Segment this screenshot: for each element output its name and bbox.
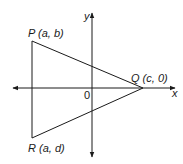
point-r-label: R (a, d) (28, 142, 65, 154)
y-axis-label: y (83, 10, 91, 22)
point-q-label: Q (c, 0) (131, 72, 168, 84)
origin-label: 0 (84, 89, 90, 101)
coordinate-diagram: y x 0 P (a, b) Q (c, 0) R (a, d) (0, 0, 183, 164)
x-axis-label: x (171, 87, 178, 99)
point-p-label: P (a, b) (28, 27, 64, 39)
